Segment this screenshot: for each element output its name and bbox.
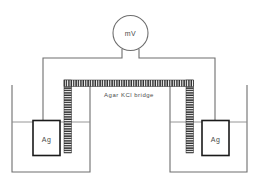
- left-electrode: Ag: [33, 121, 60, 156]
- salt-bridge-label: Agar KCl bridge: [104, 92, 154, 98]
- meter-label: mV: [125, 30, 136, 37]
- salt-bridge: [64, 80, 194, 153]
- electrochemical-cell-diagram: Ag Ag mV Agar KCl bridge: [0, 0, 257, 192]
- left-electrode-label: Ag: [42, 136, 51, 144]
- diagram-canvas: Ag Ag mV Agar KCl bridge: [0, 0, 257, 192]
- salt-bridge-left-arm: [64, 80, 72, 153]
- salt-bridge-right-arm: [186, 80, 194, 153]
- right-electrode-label: Ag: [211, 136, 220, 144]
- right-electrode: Ag: [202, 121, 229, 156]
- millivolt-meter: mV: [113, 16, 148, 51]
- salt-bridge-top-span: [64, 80, 194, 87]
